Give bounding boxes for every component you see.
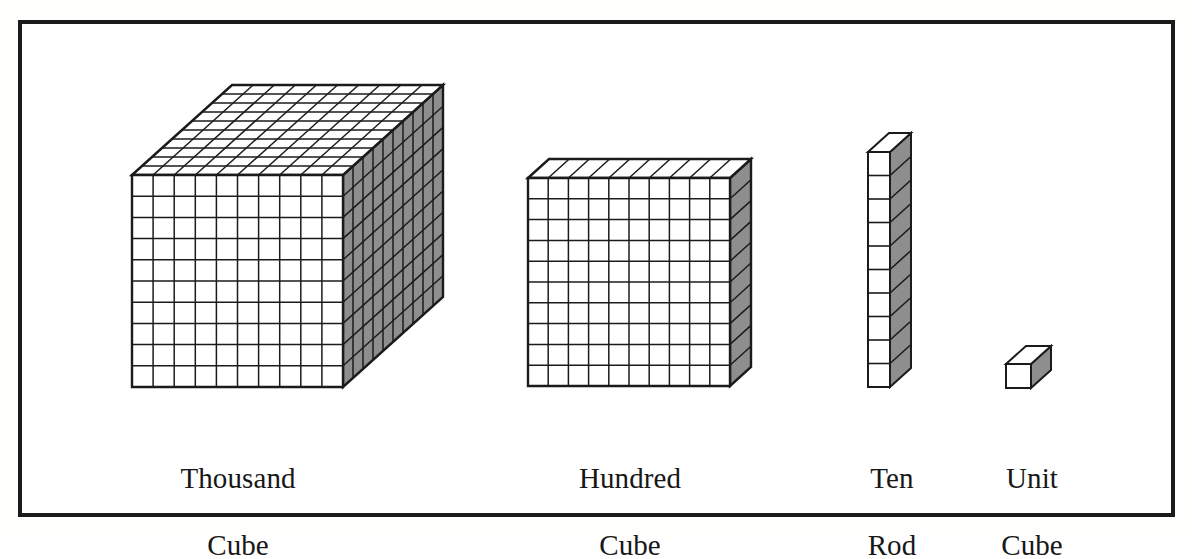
label-thousand-line2: Cube (132, 529, 344, 559)
label-ten-line2: Rod (812, 529, 972, 559)
label-hundred-line2: Cube (524, 529, 736, 559)
label-ten-rod: Ten Rod (812, 428, 972, 559)
label-hundred-line1: Hundred (524, 462, 736, 496)
label-unit-line2: Cube (952, 529, 1112, 559)
label-thousand-cube: Thousand Cube (132, 428, 344, 559)
label-thousand-line1: Thousand (132, 462, 344, 496)
label-ten-line1: Ten (812, 462, 972, 496)
label-unit-cube: Unit Cube (952, 428, 1112, 559)
label-hundred-cube: Hundred Cube (524, 428, 736, 559)
label-unit-line1: Unit (952, 462, 1112, 496)
